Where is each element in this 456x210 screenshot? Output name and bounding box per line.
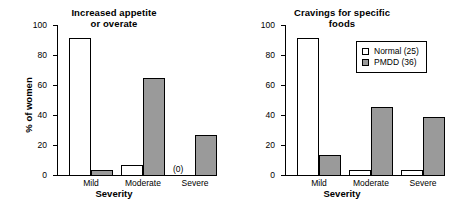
x-category-moderate: Moderate [349,179,393,188]
y-tick-label-80: 80 [266,51,275,60]
y-tick-label-0: 0 [270,171,275,180]
x-category-severe: Severe [401,179,445,188]
bar-normal-mild [69,38,91,176]
y-tick-label-40: 40 [266,111,275,120]
x-category-mild: Mild [69,179,113,188]
bar-normal-severe [401,170,423,176]
y-tick-label-100: 100 [261,21,275,30]
legend: Normal (25) PMDD (36) [356,41,427,73]
bar-normal-mild [297,38,319,176]
y-tick-label-80: 80 [38,51,47,60]
x-axis-label: Severity [228,188,456,199]
y-tick-40: 40 [281,115,285,116]
y-tick-label-0: 0 [42,171,47,180]
y-axis-label: % of women [23,77,34,132]
panel-title-line1: Increased appetite [0,7,228,18]
y-tick-80: 80 [53,55,57,56]
y-tick-label-100: 100 [33,21,47,30]
bar-normal-moderate [121,165,143,176]
y-tick-label-40: 40 [38,111,47,120]
bar-pmdd-mild [319,155,341,176]
plot-area-left: 0 20 40 60 80 100 (0) Mild Moderate Seve… [57,25,217,176]
y-tick-60: 60 [53,85,57,86]
x-category-moderate: Moderate [121,179,165,188]
y-tick-60: 60 [281,85,285,86]
panel-cravings-specific-foods: Cravings for specific foods 0 20 40 60 8… [228,0,456,210]
y-tick-0: 0 [53,175,57,176]
y-tick-label-20: 20 [38,141,47,150]
x-category-mild: Mild [297,179,341,188]
legend-label-pmdd: PMDD (36) [374,57,417,68]
y-tick-100: 100 [281,25,285,26]
legend-swatch-pmdd-icon [362,59,369,66]
x-axis-label: Severity [0,188,228,199]
y-tick-100: 100 [53,25,57,26]
y-tick-20: 20 [281,145,285,146]
zero-annotation: (0) [173,165,183,174]
bar-pmdd-mild [91,170,113,176]
legend-entry-normal: Normal (25) [362,46,419,57]
y-tick-40: 40 [53,115,57,116]
y-tick-80: 80 [281,55,285,56]
panel-title-line1: Cravings for specific [228,7,456,18]
y-tick-label-60: 60 [38,81,47,90]
figure-two-panel-bar-chart: Increased appetite or overate % of women… [0,0,456,210]
bar-pmdd-moderate [143,78,165,176]
y-tick-label-60: 60 [266,81,275,90]
bar-pmdd-moderate [371,107,393,176]
legend-label-normal: Normal (25) [374,46,419,57]
y-tick-20: 20 [53,145,57,146]
y-tick-label-20: 20 [266,141,275,150]
bar-normal-moderate [349,170,371,176]
x-category-severe: Severe [173,179,217,188]
legend-entry-pmdd: PMDD (36) [362,57,419,68]
y-axis-line [285,25,286,176]
legend-swatch-normal-icon [362,48,369,55]
y-tick-0: 0 [281,175,285,176]
y-axis-line [57,25,58,176]
panel-increased-appetite: Increased appetite or overate % of women… [0,0,228,210]
bar-pmdd-severe [195,135,217,176]
bar-pmdd-severe [423,117,445,176]
